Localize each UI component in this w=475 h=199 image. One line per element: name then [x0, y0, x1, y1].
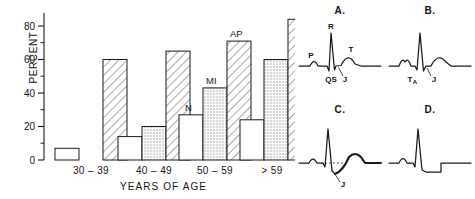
ecg-label-t: T	[349, 45, 354, 54]
bar-n-50-59	[179, 115, 203, 160]
bar-annotation-n: N	[185, 102, 192, 113]
x-category-3: > 59	[261, 165, 282, 176]
x-category-2: 50 – 59	[197, 165, 233, 176]
y-tick-60: 60	[24, 54, 36, 65]
bar-group-30-39	[55, 60, 127, 161]
y-tick-0: 0	[29, 155, 35, 166]
ecg-label-ta-subscript: A	[413, 79, 418, 85]
x-category-0: 30 – 39	[73, 165, 109, 176]
ecg-panel-d: D.	[385, 99, 475, 198]
bar-chart-svg: 0 20 40 60 80 N MI AP	[0, 0, 295, 199]
bar-annotation-ap: AP	[230, 28, 243, 39]
ecg-waveform-d	[385, 113, 475, 198]
x-category-1: 40 – 49	[136, 165, 172, 176]
bar-chart-panel: PERCENT	[0, 0, 295, 199]
ecg-panel-b: B. T A J	[385, 0, 475, 99]
y-axis	[38, 13, 44, 160]
y-tick-40: 40	[24, 88, 36, 99]
figure-root: PERCENT	[0, 0, 475, 199]
bar-mi-50-59	[203, 88, 227, 160]
bar-ap-gt59	[288, 19, 295, 160]
ecg-waveform-b: T A J	[385, 14, 475, 99]
ecg-waveform-a: P R QS J T	[295, 14, 385, 99]
ecg-label-j: J	[343, 75, 347, 84]
ecg-label-j: J	[341, 180, 345, 189]
y-tick-80: 80	[24, 21, 36, 32]
ecg-panel-a: A. P R QS J T	[295, 0, 385, 99]
ecg-label-p: P	[308, 51, 314, 60]
y-tick-20: 20	[24, 121, 36, 132]
bar-annotation-mi: MI	[206, 75, 217, 86]
ecg-label-r: R	[328, 22, 334, 31]
ecg-panel-group: A. P R QS J T B. T A J C.	[295, 0, 475, 199]
x-axis-label: YEARS OF AGE	[46, 181, 281, 192]
bar-mi-40-49	[142, 127, 166, 161]
ecg-panel-c: C. J	[295, 99, 385, 198]
bar-mi-gt59	[264, 60, 288, 161]
ecg-label-j: J	[432, 75, 436, 84]
bar-n-40-49	[118, 137, 142, 160]
bar-n-gt59	[240, 120, 264, 160]
ecg-label-ta: T	[408, 75, 413, 84]
ecg-label-qs: QS	[325, 75, 337, 84]
bar-n-30-39	[55, 148, 79, 160]
ecg-waveform-c: J	[295, 113, 385, 198]
